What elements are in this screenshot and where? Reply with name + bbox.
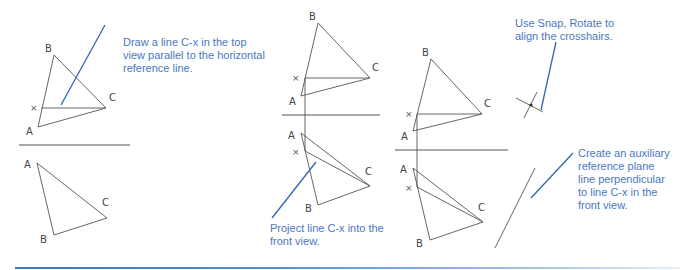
panel3-front-triangle xyxy=(413,168,483,240)
callout1-leader-line xyxy=(61,25,105,105)
panel2-front-label-c: C xyxy=(365,166,372,177)
panel3-top-label-b: B xyxy=(422,47,429,58)
callout-draw-line-cx: Draw a line C-x in the top view parallel… xyxy=(123,36,265,75)
panel1-top-label-a: A xyxy=(26,126,33,137)
panel1-top-label-b: B xyxy=(45,43,52,54)
panel2-front-label-a: A xyxy=(288,130,295,141)
callout-auxiliary-plane: Create an auxiliary reference plane line… xyxy=(578,147,670,212)
panel2-top-label-x: × xyxy=(292,73,300,83)
panel1-front-label-a: A xyxy=(24,159,31,170)
callout-project-line-cx: Project line C-x into the front view. xyxy=(270,222,384,248)
panel1-top-label-c: C xyxy=(109,92,116,103)
crosshair-center xyxy=(529,103,532,106)
panel2-top-label-b: B xyxy=(309,11,316,22)
panel3-top-label-a: A xyxy=(401,131,408,142)
crosshairs-icon xyxy=(516,92,543,118)
panel1-front-label-c: C xyxy=(102,197,109,208)
panel1-front-label-b: B xyxy=(40,234,47,245)
panel-1: B C A × A C B xyxy=(19,25,130,245)
panel2-front-label-x: × xyxy=(292,147,300,157)
panel2-top-label-a: A xyxy=(289,96,296,107)
panel3-top-label-c: C xyxy=(484,98,491,109)
panel1-front-triangle xyxy=(37,163,107,235)
callout3-leader-line xyxy=(541,42,556,110)
panel3-top-label-x: × xyxy=(405,109,413,119)
panel3-front-label-c: C xyxy=(478,202,485,213)
panel-2: B C A × A × C B xyxy=(272,11,380,218)
panel2-front-label-b: B xyxy=(305,203,312,214)
panel3-top-triangle xyxy=(413,59,482,131)
panel2-top-label-c: C xyxy=(372,62,379,73)
panel2-top-triangle xyxy=(301,23,370,96)
panel1-top-triangle xyxy=(38,55,106,127)
panel3-front-label-x: × xyxy=(405,183,413,193)
callout-snap-rotate: Use Snap, Rotate to align the crosshairs… xyxy=(515,17,614,43)
panel1-top-label-x: × xyxy=(30,103,38,113)
orthographic-projection-figure: B C A × A C B B C A × xyxy=(0,0,685,270)
panel3-front-label-b: B xyxy=(416,238,423,249)
panel2-front-line-cx xyxy=(305,151,370,186)
bottom-divider-rule xyxy=(15,267,680,269)
callout4-leader-line xyxy=(531,153,573,198)
panel3-front-line-cx xyxy=(417,187,483,222)
auxiliary-reference-plane-line xyxy=(495,168,535,248)
panel2-front-triangle xyxy=(301,133,370,205)
panel-3: B C A × A × C B xyxy=(395,47,535,249)
panel3-front-label-a: A xyxy=(400,164,407,175)
